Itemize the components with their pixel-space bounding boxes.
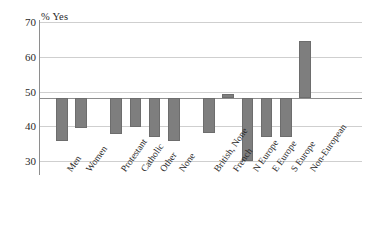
bar-other (149, 98, 161, 137)
y-tick-30: 30 (12, 156, 36, 167)
y-tick-70: 70 (12, 17, 36, 28)
bar-s-europe (280, 98, 292, 136)
bar-french (222, 94, 234, 98)
x-axis-category-labels: MenWomenProtestantCatholicOtherNoneBriti… (40, 168, 362, 244)
bar-men (56, 98, 68, 140)
bar-protestant (110, 98, 122, 133)
y-tick-60: 60 (12, 52, 36, 63)
bar-none (168, 98, 180, 140)
bar-women (75, 98, 87, 128)
gridline-40 (40, 126, 362, 127)
bar-e-europe (261, 98, 273, 136)
bar-chart: % Yes 70 60 50 40 30 MenWomenProtestantC… (0, 0, 367, 244)
y-tick-50: 50 (12, 87, 36, 98)
y-axis-tick-labels: 70 60 50 40 30 (6, 22, 36, 168)
gridline-70 (40, 22, 362, 23)
bar-british-none (203, 98, 215, 133)
gridline-60 (40, 57, 362, 58)
bar-catholic (130, 98, 142, 127)
baseline-reference-line (40, 98, 362, 99)
y-tick-40: 40 (12, 121, 36, 132)
bar-non-european (299, 41, 311, 98)
gridline-50 (40, 92, 362, 93)
y-axis-title: % Yes (41, 11, 68, 22)
